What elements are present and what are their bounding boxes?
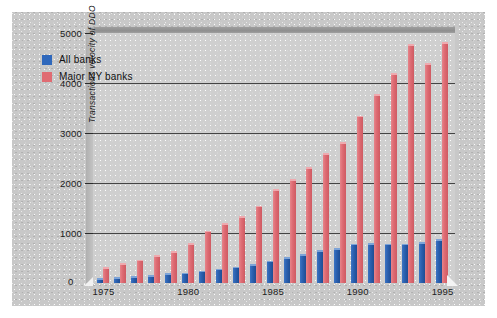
bar-major-ny-banks <box>357 116 363 284</box>
bar-group <box>419 33 432 283</box>
x-tick-label: 1975 <box>93 286 115 297</box>
bar-group <box>300 33 313 283</box>
bar-major-ny-banks <box>391 73 397 283</box>
legend-item: All banks <box>42 54 133 65</box>
chart-figure: Transactions velocity of DDO 10002000300… <box>0 0 497 318</box>
bar-major-ny-banks <box>154 255 160 283</box>
plot-corner-bevel-right <box>447 275 458 286</box>
bar-major-ny-banks <box>408 44 414 283</box>
bar-major-ny-banks <box>290 179 296 283</box>
x-tick-label: 1995 <box>432 286 454 297</box>
y-tick-label: 5000 <box>60 28 82 39</box>
bar-major-ny-banks <box>120 263 126 283</box>
x-tick-label: 1990 <box>347 286 369 297</box>
y-axis-tick <box>85 33 93 34</box>
x-tick-label: 1985 <box>262 286 284 297</box>
bar-group <box>284 33 297 283</box>
plot-corner-bevel-left <box>84 277 93 286</box>
legend-swatch <box>42 55 52 65</box>
y-axis-tick <box>85 183 93 184</box>
bar-group <box>199 33 212 283</box>
bar-group <box>165 33 178 283</box>
bar-group <box>182 33 195 283</box>
y-tick-label: 3000 <box>60 128 82 139</box>
bar-major-ny-banks <box>137 260 143 284</box>
bar-major-ny-banks <box>425 63 431 283</box>
bar-group <box>334 33 347 283</box>
y-tick-label-zero: 0 <box>68 276 73 287</box>
bar-major-ny-banks <box>171 251 177 283</box>
bar-major-ny-banks <box>205 231 211 284</box>
legend-item: Major NY banks <box>42 71 133 82</box>
bar-major-ny-banks <box>103 267 109 283</box>
chart-legend: All banksMajor NY banks <box>42 54 133 88</box>
bar-group <box>216 33 229 283</box>
bar-major-ny-banks <box>442 42 448 283</box>
bar-major-ny-banks <box>323 153 329 283</box>
y-axis-tick <box>85 233 93 234</box>
bar-group <box>368 33 381 283</box>
bar-major-ny-banks <box>273 189 279 283</box>
bar-major-ny-banks <box>239 216 245 283</box>
bar-group <box>317 33 330 283</box>
bar-major-ny-banks <box>306 167 312 283</box>
bar-major-ny-banks <box>188 243 194 283</box>
y-tick-label: 2000 <box>60 178 82 189</box>
bar-group <box>148 33 161 283</box>
bar-group <box>351 33 364 283</box>
bar-series-container <box>93 33 455 283</box>
bar-group <box>402 33 415 283</box>
x-tick-label: 1980 <box>177 286 199 297</box>
y-axis-tick <box>85 133 93 134</box>
bar-major-ny-banks <box>340 142 346 283</box>
bar-group <box>233 33 246 283</box>
legend-label: All banks <box>59 54 101 65</box>
legend-swatch <box>42 72 52 82</box>
plot-area: Transactions velocity of DDO <box>93 33 455 283</box>
bar-major-ny-banks <box>374 94 380 283</box>
bar-group <box>267 33 280 283</box>
bar-major-ny-banks <box>256 206 262 284</box>
bar-group <box>436 33 449 283</box>
bar-group <box>385 33 398 283</box>
y-tick-label: 1000 <box>60 228 82 239</box>
bar-major-ny-banks <box>222 223 228 283</box>
bar-group <box>131 33 144 283</box>
legend-label: Major NY banks <box>59 71 133 82</box>
bar-group <box>250 33 263 283</box>
